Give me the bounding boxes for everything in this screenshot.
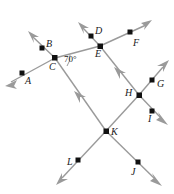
point-dot-C (52, 55, 58, 61)
segment-direction-arrows (74, 67, 126, 103)
point-label-I: I (148, 114, 151, 124)
point-label-A: A (25, 76, 31, 86)
point-label-E: E (95, 49, 101, 59)
angle-label-c: 70° (64, 55, 77, 64)
point-label-D: D (95, 26, 102, 36)
geometry-figure: 70° C E H K A B D F G I J L (0, 0, 174, 194)
point-dot-D (89, 34, 94, 39)
arrowhead-g (157, 60, 169, 72)
point-label-K: K (111, 127, 118, 137)
point-dot-L (76, 158, 81, 163)
point-dot-G (150, 78, 155, 83)
point-dot-K (104, 129, 110, 135)
point-label-L: L (67, 157, 73, 167)
point-dot-J (136, 160, 141, 165)
point-label-H: H (125, 88, 132, 98)
point-label-J: J (131, 167, 135, 177)
point-dot-A (20, 71, 25, 76)
geometry-canvas (0, 0, 174, 194)
point-dot-F (128, 30, 133, 35)
arrowhead-l (56, 173, 68, 185)
point-label-C: C (49, 62, 56, 72)
arrowhead-f (141, 20, 152, 30)
point-dot-H (137, 93, 143, 99)
point-dot-B (40, 46, 45, 51)
ray-segment-k-l (62, 131, 106, 178)
point-label-F: F (133, 38, 139, 48)
segment-c-e (55, 46, 100, 58)
point-label-B: B (46, 39, 52, 49)
point-label-G: G (157, 79, 164, 89)
